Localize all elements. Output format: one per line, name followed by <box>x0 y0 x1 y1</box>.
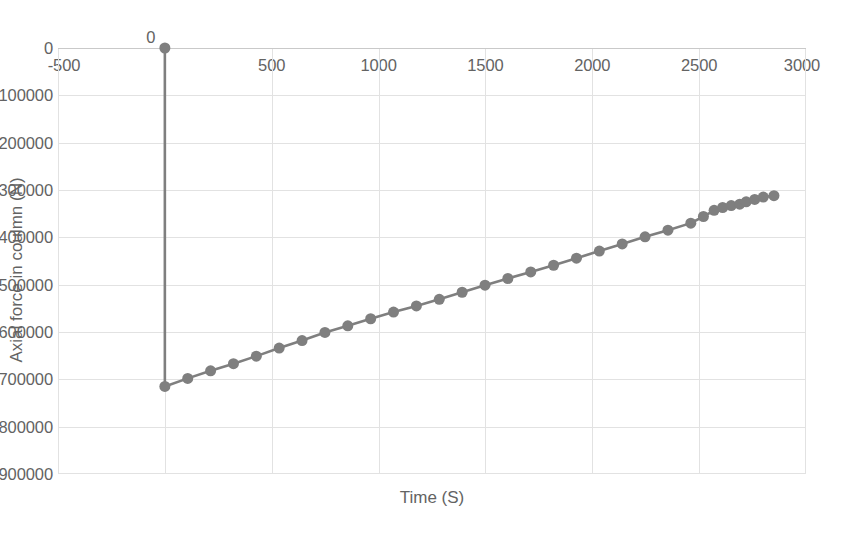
y-axis-title: Axial force in coulmn (N) <box>0 0 34 540</box>
data-point-marker <box>388 307 399 318</box>
y-axis-tick-label: 0 <box>44 39 53 58</box>
data-point-marker <box>525 266 536 277</box>
series-markers <box>159 43 779 392</box>
data-point-marker <box>182 373 193 384</box>
data-point-marker <box>365 313 376 324</box>
data-point-marker <box>594 246 605 257</box>
data-point-marker <box>205 365 216 376</box>
x-axis-title: Time (S) <box>58 488 806 508</box>
plot-area <box>58 48 806 474</box>
data-point-marker <box>480 280 491 291</box>
data-point-marker <box>434 294 445 305</box>
data-point-marker <box>457 287 468 298</box>
data-point-marker <box>617 238 628 249</box>
series-line <box>165 48 774 386</box>
data-point-marker <box>274 343 285 354</box>
data-point-marker <box>251 351 262 362</box>
data-point-marker <box>159 43 170 54</box>
chart-container: 0-100000-200000-300000-400000-500000-600… <box>0 0 851 540</box>
x-axis-tick-label-zero: 0 <box>146 28 155 47</box>
data-point-marker <box>297 335 308 346</box>
data-point-marker <box>768 190 779 201</box>
data-point-marker <box>159 381 170 392</box>
data-point-marker <box>502 273 513 284</box>
data-series-axial-force <box>58 48 806 474</box>
data-point-marker <box>319 327 330 338</box>
data-point-marker <box>342 320 353 331</box>
data-point-marker <box>662 225 673 236</box>
data-point-marker <box>640 231 651 242</box>
data-point-marker <box>698 211 709 222</box>
data-point-marker <box>411 300 422 311</box>
data-point-marker <box>228 358 239 369</box>
data-point-marker <box>548 260 559 271</box>
data-point-marker <box>758 192 769 203</box>
data-point-marker <box>685 218 696 229</box>
data-point-marker <box>571 253 582 264</box>
